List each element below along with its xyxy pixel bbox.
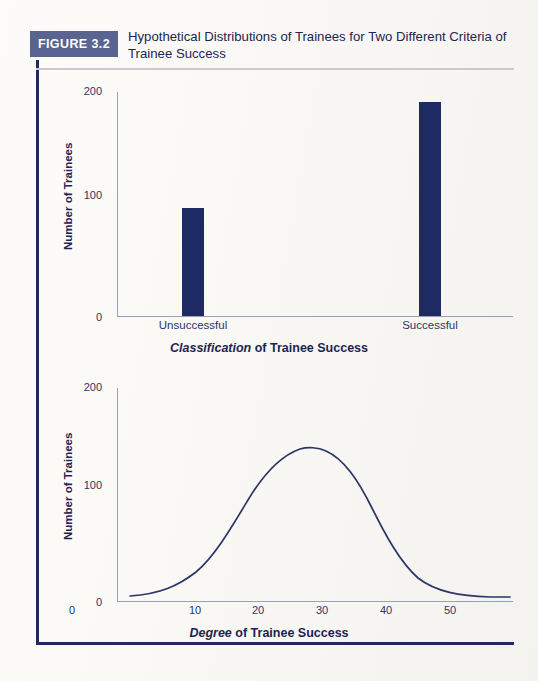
distribution-chart-x-axis-title: Degree of Trainee Success [0,626,538,640]
distribution-chart: Number of Trainees 200 100 0 0 10 20 30 … [0,0,538,681]
distribution-chart-x-axis-title-rest: of Trainee Success [232,626,349,640]
distribution-chart-x-axis-title-emphasis: Degree [189,626,231,640]
normal-distribution-curve [0,0,538,681]
figure-page: FIGURE 3.2 Hypothetical Distributions of… [0,0,538,681]
distribution-chart-x-tick-40: 40 [366,604,406,616]
distribution-chart-x-tick-0: 0 [52,604,92,616]
distribution-chart-x-tick-20: 20 [238,604,278,616]
distribution-chart-x-tick-10: 10 [175,604,215,616]
distribution-chart-x-tick-50: 50 [430,604,470,616]
distribution-chart-x-tick-30: 30 [302,604,342,616]
